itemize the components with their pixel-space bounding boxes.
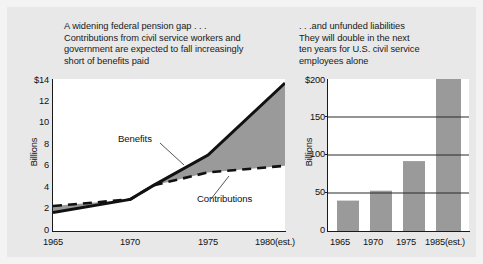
right-ytick-150: 150	[291, 112, 325, 122]
figure-canvas: A widening federal pension gap . . . Con…	[0, 0, 483, 264]
right-ytick-200: $200	[291, 75, 325, 85]
left-x-axis-line	[52, 231, 286, 232]
right-xtick-1985: 1985(est.)	[414, 237, 476, 247]
left-xtick-1965: 1965	[33, 237, 73, 247]
left-ytick-0: 0	[17, 225, 49, 235]
right-chart-headline: . . .and unfunded liabilities They will …	[299, 21, 479, 67]
right-ytick-100: 100	[291, 149, 325, 159]
right-ytick-0: 0	[291, 225, 325, 235]
right-chart-panel: . . .and unfunded liabilities They will …	[295, 7, 476, 257]
bar-1970	[370, 191, 392, 231]
right-y-axis-line	[327, 79, 328, 232]
left-plot-area	[53, 79, 285, 231]
left-chart-headline: A widening federal pension gap . . . Con…	[64, 21, 296, 67]
right-bar-chart-svg	[328, 79, 469, 231]
benefits-label: Benefits	[118, 133, 152, 144]
left-xtick-1970: 1970	[110, 237, 150, 247]
right-plot-area	[328, 79, 469, 231]
figure-inner-frame: A widening federal pension gap . . . Con…	[7, 7, 476, 257]
bar-1965	[337, 201, 359, 231]
left-ytick-2: 2	[17, 203, 49, 213]
left-ytick-12: 12	[17, 96, 49, 106]
left-y-axis-line	[52, 79, 53, 232]
left-ytick-14: $14	[17, 75, 49, 85]
left-ytick-4: 4	[17, 182, 49, 192]
left-chart-panel: A widening federal pension gap . . . Con…	[17, 7, 295, 257]
right-ytick-50: 50	[291, 187, 325, 197]
bar-1975	[403, 161, 425, 231]
left-ytick-8: 8	[17, 139, 49, 149]
contributions-label: Contributions	[197, 193, 252, 204]
right-x-axis-line	[327, 231, 470, 232]
left-y-axis-title: Billions	[29, 122, 39, 182]
left-xtick-1975: 1975	[188, 237, 228, 247]
left-line-chart-svg	[53, 79, 285, 231]
left-ytick-10: 10	[17, 117, 49, 127]
left-ytick-6: 6	[17, 160, 49, 170]
